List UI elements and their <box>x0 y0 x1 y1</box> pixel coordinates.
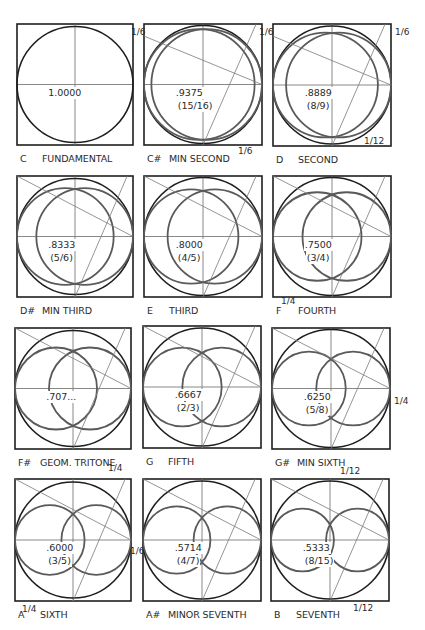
ratio-value: .6667 <box>174 389 203 401</box>
ratio-fraction: (3/5) <box>47 555 72 567</box>
note-name: A# <box>146 609 160 620</box>
ratio-fraction: (2/3) <box>176 402 201 414</box>
ratio-value: .9375 <box>175 87 204 99</box>
interval-cell-g <box>143 326 261 448</box>
interval-cell-c-sharp <box>144 24 262 145</box>
ratio-fraction: (4/5) <box>177 252 202 264</box>
ratio-fraction: (15/16) <box>177 100 214 112</box>
ratio-value: 1.0000 <box>47 87 82 99</box>
ratio-value: .8333 <box>47 239 76 251</box>
ratio-fraction: (8/15) <box>304 555 335 567</box>
dimension-mark: 1/6 <box>395 27 409 37</box>
ratio-value: .707... <box>45 391 77 403</box>
ratio-value: .6000 <box>45 542 74 554</box>
note-name: E <box>147 305 153 316</box>
interval-cell-c <box>17 24 133 145</box>
interval-name: GEOM. TRITONE <box>40 457 115 468</box>
interval-cell-a <box>15 479 131 601</box>
interval-cell-d-sharp <box>17 176 133 297</box>
interval-cell-d <box>273 24 391 146</box>
note-name: C# <box>147 153 161 164</box>
note-name: D <box>276 154 283 165</box>
ratio-value: .8000 <box>175 239 204 251</box>
dimension-mark: 1/12 <box>353 603 373 613</box>
interval-name: MIN SECOND <box>169 153 230 164</box>
ratio-fraction: (5/8) <box>305 404 330 416</box>
interval-cell-b <box>271 479 389 601</box>
interval-name: THIRD <box>169 305 198 316</box>
ratio-value: .5714 <box>174 542 203 554</box>
interval-name: FUNDAMENTAL <box>42 153 112 164</box>
ratio-value: .6250 <box>303 391 332 403</box>
dimension-mark: 1/12 <box>364 136 384 146</box>
dimension-mark: 1/12 <box>340 466 360 476</box>
interval-name: MIN THIRD <box>42 305 92 316</box>
dimension-mark: 1/6 <box>130 546 144 556</box>
interval-name: SECOND <box>298 154 338 165</box>
dimension-mark: 1/6 <box>238 146 252 156</box>
ratio-fraction: (5/6) <box>49 252 74 264</box>
interval-name: MIN SIXTH <box>297 457 345 468</box>
note-name: D# <box>20 305 35 316</box>
ratio-fraction: (8/9) <box>306 100 331 112</box>
interval-cell-f <box>273 176 391 297</box>
interval-name: FOURTH <box>298 305 336 316</box>
interval-name: FIFTH <box>168 456 194 467</box>
ratio-value: .8889 <box>304 87 333 99</box>
dimension-mark: 1/4 <box>394 396 408 406</box>
note-name: G# <box>275 457 290 468</box>
note-name: F <box>276 305 281 316</box>
note-name: F# <box>18 457 31 468</box>
interval-name: SIXTH <box>40 609 68 620</box>
interval-cell-e <box>144 176 262 297</box>
dimension-mark: 1/6 <box>131 27 145 37</box>
interval-cell-g-sharp <box>272 328 390 449</box>
note-name: C <box>20 153 27 164</box>
interval-cell-a-sharp <box>143 479 261 601</box>
dimension-mark: 1/4 <box>281 296 295 306</box>
interval-cell-f-sharp <box>15 328 131 449</box>
interval-name: MINOR SEVENTH <box>168 609 247 620</box>
ratio-fraction: (3/4) <box>306 252 331 264</box>
dimension-mark: 1/4 <box>22 604 36 614</box>
note-name: B <box>274 609 280 620</box>
ratio-value: .7500 <box>304 239 333 251</box>
ratio-value: .5333 <box>302 542 331 554</box>
note-name: G <box>146 456 153 467</box>
ratio-fraction: (4/7) <box>176 555 201 567</box>
interval-name: SEVENTH <box>296 609 340 620</box>
dimension-mark: 1/4 <box>108 463 122 473</box>
dimension-mark: 1/6 <box>259 27 273 37</box>
